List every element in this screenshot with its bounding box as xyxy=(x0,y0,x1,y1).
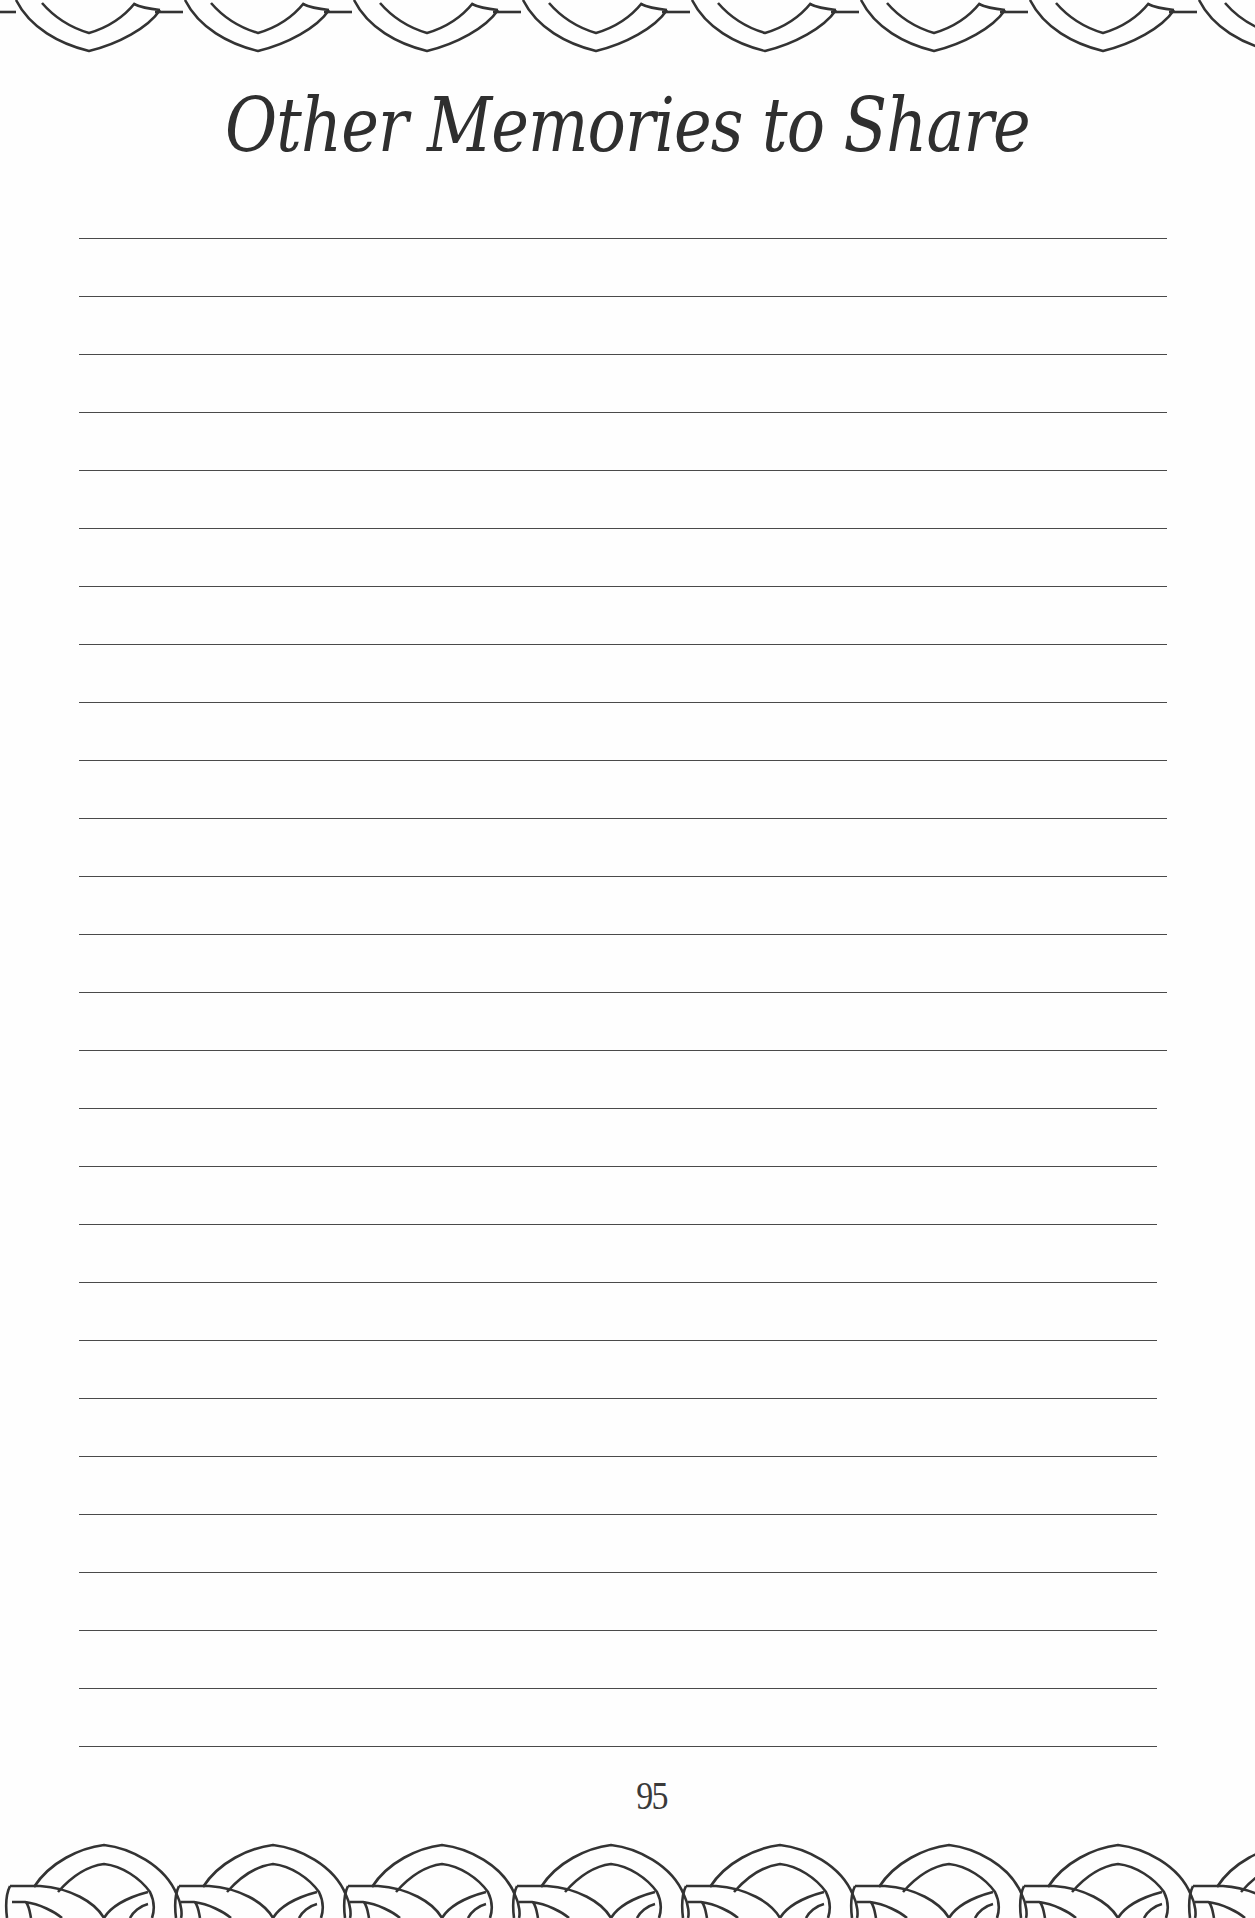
writing-line xyxy=(79,1224,1157,1225)
page-number: 95 xyxy=(98,1772,1185,1819)
writing-line xyxy=(79,470,1167,471)
writing-line xyxy=(79,1398,1157,1399)
bottom-decorative-border-icon xyxy=(0,1820,1255,1918)
writing-line xyxy=(79,528,1167,529)
writing-line xyxy=(79,1340,1157,1341)
writing-line xyxy=(79,1282,1157,1283)
writing-line xyxy=(79,1166,1157,1167)
writing-line xyxy=(79,238,1167,239)
writing-line xyxy=(79,1630,1157,1631)
writing-line xyxy=(79,934,1167,935)
writing-line xyxy=(79,586,1167,587)
writing-lines xyxy=(0,0,1255,1918)
writing-line xyxy=(79,1572,1157,1573)
writing-line xyxy=(79,644,1167,645)
writing-line xyxy=(79,702,1167,703)
writing-line xyxy=(79,354,1167,355)
writing-line xyxy=(79,760,1167,761)
writing-line xyxy=(79,1688,1157,1689)
writing-line xyxy=(79,1050,1167,1051)
writing-line xyxy=(79,296,1167,297)
writing-line xyxy=(79,992,1167,993)
writing-line xyxy=(79,1108,1157,1109)
writing-line xyxy=(79,412,1167,413)
writing-line xyxy=(79,1746,1157,1747)
writing-line xyxy=(79,1514,1157,1515)
writing-line xyxy=(79,818,1167,819)
writing-line xyxy=(79,876,1167,877)
writing-line xyxy=(79,1456,1157,1457)
